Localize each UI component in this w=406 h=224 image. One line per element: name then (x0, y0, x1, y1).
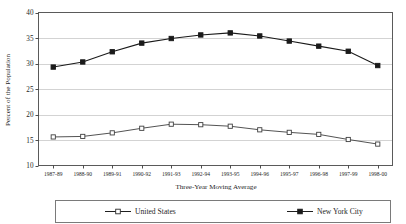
data-point-marker (169, 36, 173, 40)
x-tick-label: 1995-97 (280, 171, 299, 177)
data-point-marker (110, 131, 114, 135)
legend-items: United StatesNew York City (105, 207, 363, 216)
data-point-marker (199, 33, 203, 37)
x-tick-label: 1992-94 (192, 171, 211, 177)
data-point-marker (258, 128, 262, 132)
figure-container: 10152025303540 1987-891988-901989-911990… (0, 0, 406, 224)
data-point-marker (81, 60, 85, 64)
x-tick-label: 1998-00 (369, 171, 388, 177)
data-point-marker (228, 124, 232, 128)
series-layer (51, 31, 380, 146)
legend-marker-new-york-city (298, 209, 303, 214)
series-new-york-city (51, 31, 380, 70)
x-axis-ticks: 1987-891988-901989-911990-921991-931992-… (44, 166, 387, 177)
data-point-marker (376, 142, 380, 146)
x-tick-label: 1989-91 (103, 171, 122, 177)
x-tick-label: 1996-98 (310, 171, 329, 177)
series-line (53, 33, 378, 67)
y-axis-ticks: 10152025303540 (26, 9, 38, 170)
legend-label-new-york-city[interactable]: New York City (317, 207, 363, 216)
line-chart: 10152025303540 1987-891988-901989-911990… (0, 0, 406, 224)
x-tick-label: 1987-89 (44, 171, 63, 177)
data-point-marker (51, 135, 55, 139)
data-point-marker (51, 65, 55, 69)
y-tick-label: 10 (26, 162, 34, 170)
data-point-marker (228, 31, 232, 35)
data-point-marker (140, 126, 144, 130)
data-point-marker (346, 137, 350, 141)
y-tick-label: 20 (26, 111, 34, 119)
series-united-states (51, 122, 380, 146)
y-axis-label: Percent of the Population (4, 54, 12, 126)
data-point-marker (376, 63, 380, 67)
legend-label-united-states[interactable]: United States (135, 207, 176, 216)
x-tick-label: 1994-96 (251, 171, 270, 177)
data-point-marker (81, 134, 85, 138)
y-tick-label: 30 (26, 60, 34, 68)
plot-area-border (39, 13, 393, 166)
y-tick-label: 15 (26, 137, 34, 145)
x-tick-label: 1993-95 (221, 171, 240, 177)
data-point-marker (317, 132, 321, 136)
y-tick-label: 40 (26, 9, 34, 17)
x-tick-label: 1997-99 (339, 171, 358, 177)
x-tick-label: 1988-90 (74, 171, 93, 177)
data-point-marker (317, 44, 321, 48)
data-point-marker (346, 49, 350, 53)
data-point-marker (287, 39, 291, 43)
x-tick-label: 1991-93 (162, 171, 181, 177)
y-tick-label: 35 (26, 35, 34, 43)
data-point-marker (199, 123, 203, 127)
data-point-marker (110, 50, 114, 54)
series-line (53, 124, 378, 144)
data-point-marker (140, 41, 144, 45)
legend-marker-united-states (116, 209, 121, 214)
x-axis-label: Three-Year Moving Average (175, 183, 256, 191)
x-tick-label: 1990-92 (133, 171, 152, 177)
data-point-marker (287, 130, 291, 134)
y-tick-label: 25 (26, 86, 34, 94)
data-point-marker (169, 122, 173, 126)
data-point-marker (258, 34, 262, 38)
